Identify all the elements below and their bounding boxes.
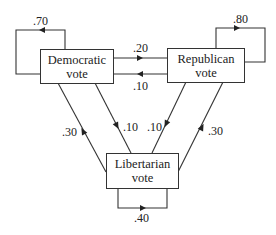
edge-label-lib-rep: .30 bbox=[208, 125, 223, 137]
edge-lib-lib bbox=[118, 188, 167, 208]
edge-rep-lib bbox=[152, 82, 186, 153]
node-democratic-vote: Democratic vote bbox=[40, 49, 114, 84]
node-libertarian-vote: Libertarian vote bbox=[106, 153, 179, 189]
edge-dem-lib bbox=[95, 83, 131, 153]
edge-label-rep-dem: .10 bbox=[133, 80, 148, 92]
edge-label-dem-dem: .70 bbox=[33, 15, 48, 27]
edge-label-dem-rep: .20 bbox=[133, 42, 148, 54]
diagram-edges bbox=[0, 0, 276, 235]
node-label-line1: Libertarian bbox=[115, 157, 171, 171]
node-label-line1: Republican bbox=[178, 52, 235, 66]
node-label-line2: vote bbox=[195, 66, 217, 80]
edge-label-dem-lib: .10 bbox=[123, 121, 138, 133]
edge-label-rep-lib: .10 bbox=[147, 121, 162, 133]
node-republican-vote: Republican vote bbox=[167, 48, 245, 83]
edge-label-lib-dem: .30 bbox=[62, 126, 77, 138]
edge-label-rep-rep: .80 bbox=[233, 13, 248, 25]
edge-label-lib-lib: .40 bbox=[134, 212, 149, 224]
node-label-line1: Democratic bbox=[48, 53, 106, 67]
node-label-line2: vote bbox=[132, 171, 154, 185]
node-label-line2: vote bbox=[66, 67, 88, 81]
